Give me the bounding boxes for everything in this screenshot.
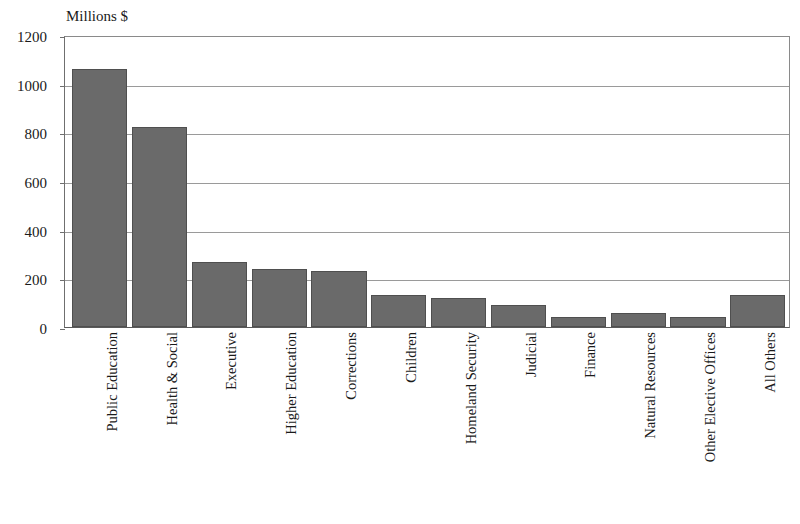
y-tick-mark xyxy=(60,329,65,330)
bar xyxy=(371,295,426,327)
x-axis-category-label-text: Other Elective Offices xyxy=(703,332,718,462)
y-tick-label: 0 xyxy=(0,322,47,337)
x-axis-category-label-text: Executive xyxy=(224,332,239,390)
x-axis-category-label: Judicial xyxy=(524,332,539,377)
x-axis-category-label: Health & Social xyxy=(165,332,180,425)
x-axis-category-label-text: Judicial xyxy=(524,332,539,377)
x-axis-labels: Public EducationHealth & SocialExecutive… xyxy=(64,332,790,522)
bar xyxy=(252,269,307,327)
x-axis-category-label-text: Children xyxy=(404,332,419,383)
bar xyxy=(72,69,127,327)
x-axis-category-label: Public Education xyxy=(105,332,120,431)
y-tick-label: 400 xyxy=(0,225,47,240)
bar xyxy=(670,317,725,327)
x-axis-category-label: Higher Education xyxy=(284,332,299,435)
y-tick-label: 600 xyxy=(0,176,47,191)
x-axis-category-label: All Others xyxy=(763,332,778,393)
y-tick-label: 1200 xyxy=(0,30,47,45)
y-tick-label: 800 xyxy=(0,127,47,142)
y-axis-unit-label: Millions $ xyxy=(66,6,128,26)
plot-area: 020040060080010001200 xyxy=(64,36,790,328)
x-axis-category-label-text: Corrections xyxy=(344,332,359,400)
x-axis-category-label-text: Homeland Security xyxy=(464,332,479,444)
x-axis-category-label-text: Finance xyxy=(583,332,598,378)
bars-group xyxy=(65,37,789,327)
bar xyxy=(311,271,366,327)
x-axis-category-label-text: Health & Social xyxy=(165,332,180,425)
x-axis-category-label-text: Higher Education xyxy=(284,332,299,435)
x-axis-category-label: Other Elective Offices xyxy=(703,332,718,462)
x-axis-category-label: Finance xyxy=(583,332,598,378)
x-axis-category-label: Corrections xyxy=(344,332,359,400)
bar xyxy=(491,305,546,327)
x-axis-category-label-text: Public Education xyxy=(105,332,120,431)
x-axis-category-label: Executive xyxy=(224,332,239,390)
bar-chart: Millions $ 020040060080010001200 Public … xyxy=(0,0,800,524)
x-axis-category-label: Natural Resources xyxy=(643,332,658,439)
bar xyxy=(611,313,666,327)
y-tick-label: 1000 xyxy=(0,79,47,94)
bar xyxy=(431,298,486,327)
bar xyxy=(192,262,247,327)
x-axis-category-label: Homeland Security xyxy=(464,332,479,444)
x-axis-category-label-text: All Others xyxy=(763,332,778,393)
x-axis-category-label: Children xyxy=(404,332,419,383)
bar xyxy=(132,127,187,327)
bar xyxy=(551,317,606,327)
y-tick-label: 200 xyxy=(0,273,47,288)
bar xyxy=(730,295,785,327)
x-axis-category-label-text: Natural Resources xyxy=(643,332,658,439)
